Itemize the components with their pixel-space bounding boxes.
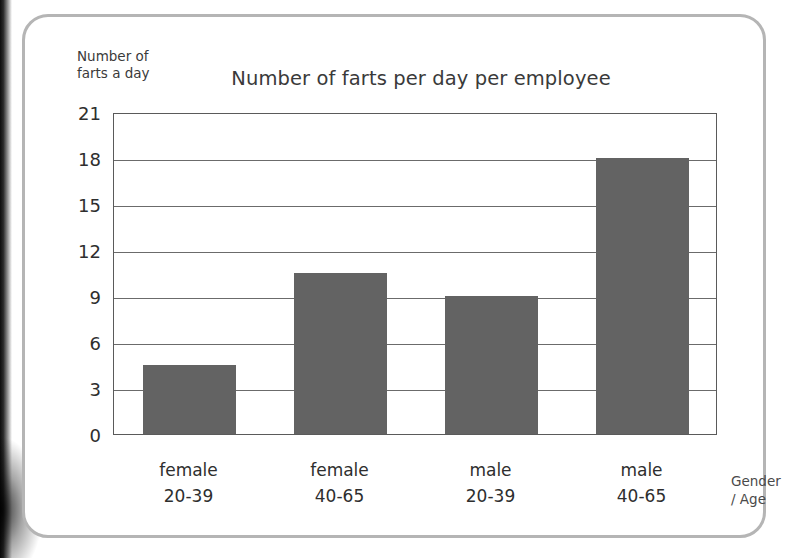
chart-card: Number of farts a day Number of farts pe… <box>22 14 766 538</box>
bar <box>596 158 690 434</box>
chart-title: Number of farts per day per employee <box>221 67 621 90</box>
bar <box>143 365 237 434</box>
y-axis-tick-label: 18 <box>41 149 101 170</box>
x-axis-category-label: male 40-65 <box>566 457 717 510</box>
y-axis-tick-label: 15 <box>41 195 101 216</box>
bar-series <box>114 114 716 434</box>
x-axis-category-label: female 20-39 <box>113 457 264 510</box>
x-axis-category-label: male 20-39 <box>415 457 566 510</box>
y-axis-tick-label: 9 <box>41 287 101 308</box>
x-axis-category-label: female 40-65 <box>264 457 415 510</box>
y-axis-tick-label: 12 <box>41 241 101 262</box>
y-axis-tick-label: 3 <box>41 379 101 400</box>
y-axis-caption: Number of farts a day <box>77 48 150 83</box>
y-axis-tick-label: 6 <box>41 333 101 354</box>
y-axis-tick-label: 21 <box>41 103 101 124</box>
y-axis-tick-label: 0 <box>41 425 101 446</box>
bar <box>294 273 388 434</box>
x-axis-category-labels: female 20-39female 40-65male 20-39male 4… <box>113 457 717 527</box>
y-axis-tick-labels: 036912151821 <box>39 113 101 435</box>
bar <box>445 296 539 434</box>
plot-area <box>113 113 717 435</box>
x-axis-caption: Gender / Age <box>731 473 781 508</box>
